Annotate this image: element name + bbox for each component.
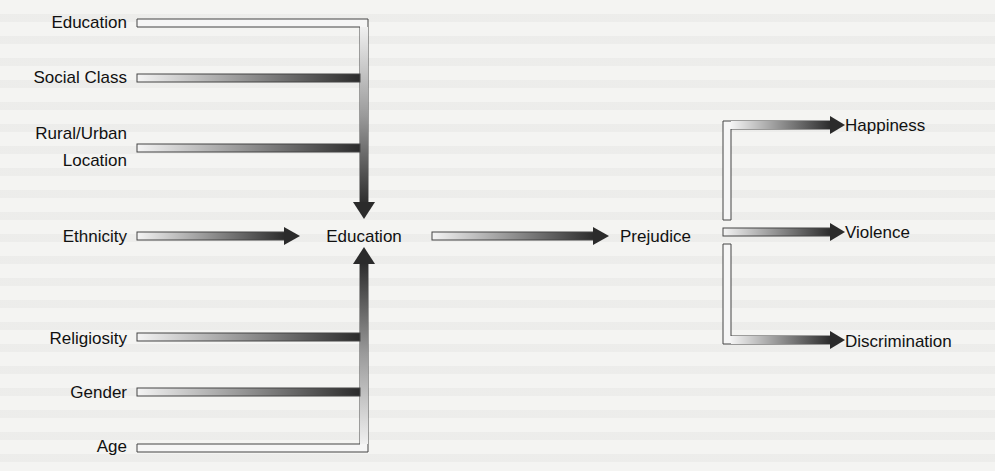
node-social-class: Social Class (33, 68, 127, 87)
arrowhead-right-icon (830, 331, 845, 349)
connector-education-prejudice (432, 227, 609, 245)
node-prejudice: Prejudice (620, 227, 691, 246)
connector-gender (137, 388, 360, 396)
node-ethnicity: Ethnicity (63, 227, 128, 246)
connector-religiosity (137, 333, 360, 341)
node-education-input: Education (51, 13, 127, 32)
arrowhead-down-icon (353, 202, 375, 219)
arrowhead-right-icon (284, 227, 300, 245)
connector-age (137, 247, 375, 452)
node-gender: Gender (70, 383, 127, 402)
arrowhead-right-icon (593, 227, 609, 245)
node-violence: Violence (845, 223, 910, 242)
arrowhead-right-icon (830, 116, 845, 134)
node-rural-urban-line2: Location (63, 151, 127, 170)
connector-ethnicity (137, 227, 300, 245)
node-happiness: Happiness (845, 116, 925, 135)
path-diagram: Education Social Class Rural/Urban Locat… (0, 0, 995, 471)
node-education-center: Education (326, 227, 402, 246)
node-age: Age (97, 437, 127, 456)
connector-prejudice-happiness (723, 116, 845, 220)
node-rural-urban-line1: Rural/Urban (35, 124, 127, 143)
connector-prejudice-discrimination (723, 244, 845, 349)
arrowhead-up-icon (353, 247, 375, 264)
connector-education-input (137, 19, 375, 219)
arrowhead-right-icon (830, 223, 845, 241)
node-religiosity: Religiosity (50, 329, 128, 348)
connector-rural-urban (137, 144, 360, 152)
connector-social-class (137, 74, 360, 82)
connector-prejudice-violence (723, 223, 845, 241)
node-discrimination: Discrimination (845, 332, 952, 351)
